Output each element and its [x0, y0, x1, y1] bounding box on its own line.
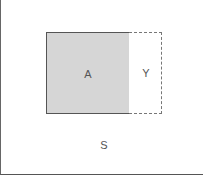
set-a-label: A [84, 68, 91, 80]
universe-label: S [100, 139, 107, 151]
region-y-label: Y [142, 67, 149, 79]
